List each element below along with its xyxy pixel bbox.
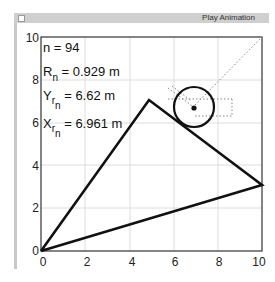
stat-x: Xrn = 6.961 m xyxy=(43,116,122,139)
stat-y: Yrn = 6.62 m xyxy=(43,88,115,111)
svg-text:0: 0 xyxy=(32,244,39,258)
svg-text:6: 6 xyxy=(172,255,179,269)
svg-text:6: 6 xyxy=(32,116,39,130)
svg-text:2: 2 xyxy=(32,201,39,215)
robot-center-dot xyxy=(191,105,196,110)
x-axis-ticks: 0 2 4 6 8 10 xyxy=(40,255,266,269)
svg-text:10: 10 xyxy=(26,31,40,45)
svg-text:2: 2 xyxy=(84,255,91,269)
svg-text:10: 10 xyxy=(252,255,266,269)
stats-overlay: n = 94 Rn = 0.929 m Yrn = 6.62 m Xrn = 6… xyxy=(43,40,122,139)
dotted-guides xyxy=(168,37,262,116)
svg-text:4: 4 xyxy=(32,159,39,173)
svg-text:0: 0 xyxy=(40,255,47,269)
svg-text:8: 8 xyxy=(216,255,223,269)
stat-n: n = 94 xyxy=(43,40,80,55)
svg-text:4: 4 xyxy=(129,255,136,269)
svg-text:8: 8 xyxy=(32,73,39,87)
trajectory-plot: 0 2 4 6 8 10 0 2 4 6 8 10 n = 94 Rn = 0.… xyxy=(0,0,275,282)
y-axis-ticks: 0 2 4 6 8 10 xyxy=(26,31,40,258)
